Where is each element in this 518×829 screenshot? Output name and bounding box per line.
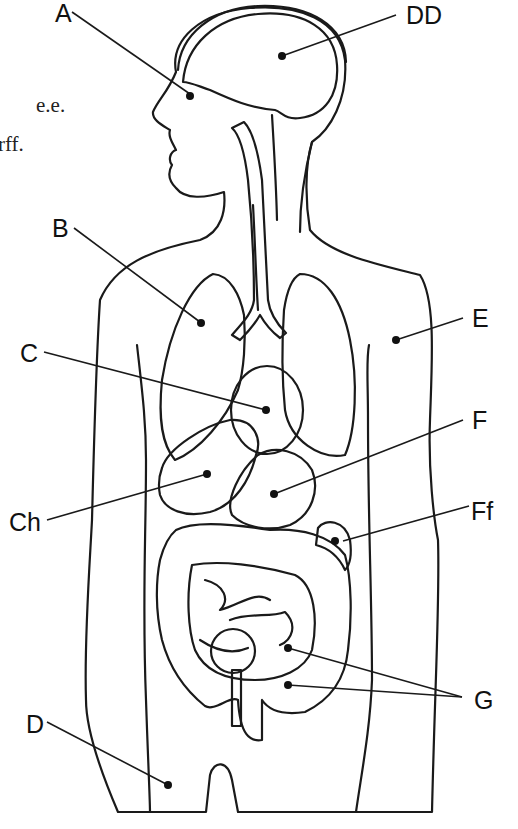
side-text-1: e.e. — [36, 93, 65, 117]
label-DD: DD — [406, 1, 442, 29]
anatomy-diagram: e.e. rff. — [0, 0, 518, 829]
label-Ff: Ff — [471, 497, 493, 525]
brain — [178, 6, 346, 118]
kidney — [316, 522, 351, 570]
label-B: B — [52, 214, 69, 242]
label-E: E — [472, 304, 489, 332]
label-G: G — [474, 686, 493, 714]
label-Ch: Ch — [9, 508, 41, 536]
label-C: C — [20, 339, 38, 367]
windpipe — [232, 115, 286, 340]
label-F: F — [472, 406, 487, 434]
large-intestine — [157, 524, 351, 740]
side-text-2: rff. — [0, 132, 24, 156]
stomach — [230, 450, 315, 528]
label-A: A — [55, 0, 72, 27]
label-D: D — [26, 710, 44, 738]
